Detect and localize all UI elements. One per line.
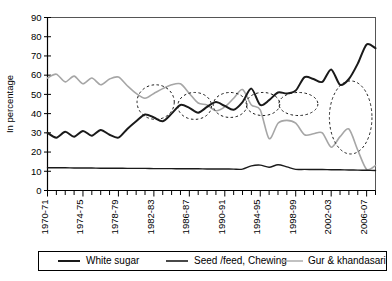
annotation-ellipse-5 bbox=[329, 81, 372, 154]
y-tick-label: 50 bbox=[31, 89, 42, 100]
y-tick-label: 10 bbox=[31, 166, 42, 177]
x-tick-label: 1978-79 bbox=[109, 200, 120, 235]
x-tick-label: 1974-75 bbox=[74, 200, 85, 235]
x-tick-label: 1986-87 bbox=[180, 200, 191, 235]
y-axis-title: In percentage bbox=[4, 75, 15, 133]
line-chart: 0102030405060708090In percentage1970-711… bbox=[0, 0, 392, 281]
y-tick-label: 20 bbox=[31, 146, 42, 157]
x-tick-label: 2006-07 bbox=[358, 200, 369, 235]
x-tick-label: 1990-91 bbox=[216, 200, 227, 235]
y-tick-label: 0 bbox=[36, 185, 41, 196]
y-tick-label: 70 bbox=[31, 50, 42, 61]
series-line-1 bbox=[48, 165, 376, 171]
x-tick-label: 1970-71 bbox=[39, 200, 50, 235]
y-tick-label: 80 bbox=[31, 31, 42, 42]
annotation-ellipse-0 bbox=[137, 85, 174, 120]
annotation-ellipse-4 bbox=[279, 92, 318, 115]
x-tick-label: 1982-83 bbox=[145, 200, 156, 235]
legend-label-0: White sugar bbox=[86, 255, 140, 266]
y-tick-label: 40 bbox=[31, 108, 42, 119]
annotation-ellipse-2 bbox=[213, 92, 247, 117]
series-line-2 bbox=[48, 74, 376, 170]
legend-label-1: Seed /feed, Chewing bbox=[194, 255, 287, 266]
y-tick-label: 90 bbox=[31, 12, 42, 23]
x-tick-label: 1998-99 bbox=[287, 200, 298, 235]
y-tick-label: 30 bbox=[31, 127, 42, 138]
x-tick-label: 2002-03 bbox=[322, 200, 333, 235]
chart-figure: 0102030405060708090In percentage1970-711… bbox=[0, 0, 392, 281]
x-tick-label: 1994-95 bbox=[251, 200, 262, 235]
legend-label-2: Gur & khandasari bbox=[308, 255, 386, 266]
y-tick-label: 60 bbox=[31, 69, 42, 80]
series-line-0 bbox=[48, 44, 376, 138]
